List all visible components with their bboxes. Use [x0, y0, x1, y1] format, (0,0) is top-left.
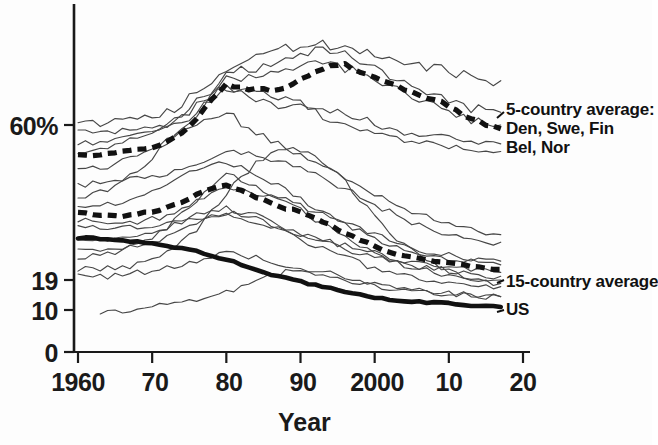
x-tick-label-1980: 80 — [189, 368, 269, 397]
y-tick-label-19: 19 — [0, 267, 58, 296]
y-tick-label-10: 10 — [0, 297, 58, 326]
series-5-country-average — [78, 64, 501, 156]
series-country-line-11 — [78, 173, 501, 281]
series-15-country-average — [78, 185, 501, 269]
annotation-5-country-line3: Bel, Nor — [506, 138, 570, 157]
series-country-line-7 — [78, 188, 501, 261]
leader-0 — [497, 112, 504, 118]
annotation-leader-lines — [497, 112, 504, 312]
x-tick-label-2020: 20 — [483, 368, 563, 397]
x-tick-label-2000: 2000 — [337, 368, 417, 397]
y-tick-label-0: 0 — [0, 339, 58, 368]
annotation-15-country: 15-country average — [506, 272, 658, 291]
series-country-line-3 — [78, 85, 501, 153]
leader-2 — [497, 310, 504, 312]
x-tick-label-2010: 10 — [409, 368, 489, 397]
x-tick-label-1960: 1960 — [38, 368, 118, 397]
annotation-5-country-line1: 5-country average: — [506, 100, 655, 119]
x-tick-label-1990: 90 — [263, 368, 343, 397]
series-country-line-15 — [78, 61, 501, 154]
x-tick-marks — [78, 352, 523, 363]
series-country-line-16 — [78, 87, 501, 144]
annotation-us: US — [506, 300, 529, 319]
series-country-line-4 — [78, 113, 501, 235]
x-axis-title: Year — [278, 408, 331, 437]
y-tick-label-60: 60% — [0, 112, 58, 141]
x-tick-label-1970: 70 — [115, 368, 195, 397]
series-country-line-5 — [78, 150, 501, 245]
series-country-line-12 — [78, 147, 501, 285]
annotation-5-country-line2: Den, Swe, Fin — [506, 119, 614, 138]
y-tick-marks — [64, 125, 74, 352]
country-series-group — [78, 40, 501, 314]
